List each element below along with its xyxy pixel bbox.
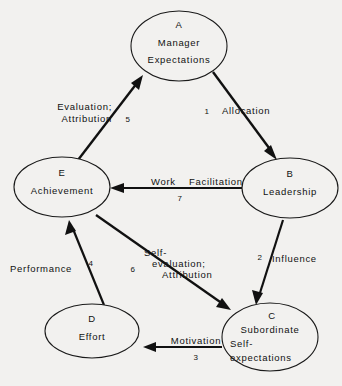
node-b-label-line1: Leadership xyxy=(263,186,317,197)
node-e-label-line1: Achievement xyxy=(31,185,94,196)
node-b-letter: B xyxy=(286,168,293,179)
node-a-letter: A xyxy=(175,19,182,30)
node-d-letter: D xyxy=(88,313,96,324)
diagram-canvas: Allocation 1 Influence 2 Motivation 3 Pe… xyxy=(0,0,342,386)
edge-2-label-line1: Influence xyxy=(272,253,317,264)
node-c-label-line3: expectations xyxy=(230,352,292,363)
edge-1-arrowhead xyxy=(264,145,277,160)
edge-7-arrowhead xyxy=(110,183,124,193)
edge-5-evaluation-attribution: Evaluation; Attribution 5 xyxy=(57,75,143,160)
edge-2-influence: Influence 2 xyxy=(252,220,317,305)
edge-6-label-line3: Attribution xyxy=(162,269,212,280)
edge-1-number: 1 xyxy=(205,107,210,116)
node-e-achievement[interactable]: E Achievement xyxy=(14,157,110,217)
node-d-label-line1: Effort xyxy=(79,331,106,342)
edge-2-arrowhead xyxy=(252,290,263,305)
edge-6-label-line2: evaluation; xyxy=(152,258,206,269)
edge-5-label-line1: Evaluation; xyxy=(57,101,112,112)
edge-5-number: 5 xyxy=(126,115,131,124)
node-c-label-line1: Subordinate xyxy=(241,324,300,335)
edge-6-self-evaluation-attribution: Self- evaluation; Attribution 6 xyxy=(96,215,231,310)
edge-4-label-line1: Performance xyxy=(10,263,72,274)
node-a-label-line2: Expectations xyxy=(148,54,211,65)
relationship-diagram: Allocation 1 Influence 2 Motivation 3 Pe… xyxy=(0,0,342,386)
edge-7-label-line1: Work xyxy=(151,176,176,187)
edge-6-number: 6 xyxy=(131,265,136,274)
node-e-letter: E xyxy=(58,167,65,178)
edge-7-number: 7 xyxy=(178,194,183,203)
node-c-label-line2: Self- xyxy=(230,338,253,349)
edge-1-allocation: Allocation 1 xyxy=(205,72,277,160)
node-b-leadership[interactable]: B Leadership xyxy=(242,158,338,218)
edge-3-number: 3 xyxy=(194,353,199,362)
edge-2-number: 2 xyxy=(258,253,263,262)
node-d-effort[interactable]: D Effort xyxy=(45,304,139,358)
node-a-manager-expectations[interactable]: A Manager Expectations xyxy=(131,11,227,81)
node-a-label-line1: Manager xyxy=(158,37,200,48)
edge-1-label-line1: Allocation xyxy=(222,105,270,116)
node-c-subordinate-self-expectations[interactable]: C Subordinate Self- expectations xyxy=(222,303,318,371)
edge-5-label-line2: Attribution xyxy=(62,113,112,124)
node-c-letter: C xyxy=(268,310,276,321)
edge-4-performance: Performance 4 xyxy=(10,220,104,305)
edge-7-work-facilitation: Work Facilitation 7 xyxy=(110,176,243,203)
edge-3-motivation: Motivation 3 xyxy=(143,335,222,362)
edge-3-arrowhead xyxy=(143,342,156,352)
edge-7-label-line2: Facilitation xyxy=(189,176,243,187)
edge-6-label-line1: Self- xyxy=(144,247,167,258)
edge-3-label-line1: Motivation xyxy=(171,335,221,346)
edge-4-number: 4 xyxy=(89,259,94,268)
